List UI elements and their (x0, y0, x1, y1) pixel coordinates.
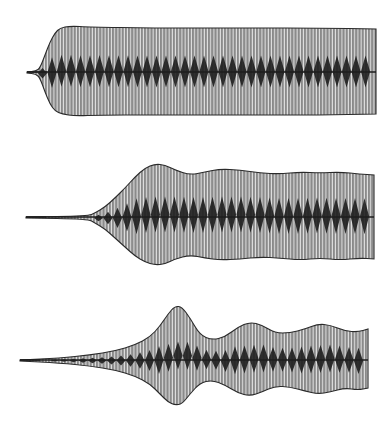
oscillation-figure (0, 0, 392, 423)
traces-layer (20, 26, 376, 404)
trace-top (27, 26, 376, 115)
trace-middle (26, 164, 374, 264)
trace-bottom (20, 306, 368, 404)
waveform-plot (0, 0, 392, 423)
